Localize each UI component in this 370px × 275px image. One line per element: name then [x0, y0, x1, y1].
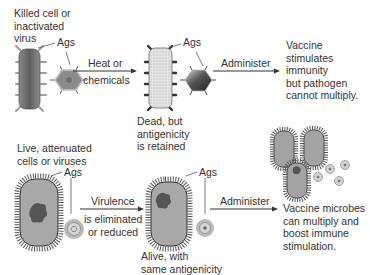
small-virus-icon [64, 219, 84, 239]
or-reduced-label: or reduced [88, 226, 138, 239]
vaccine-no-multiply-label: Vaccine stimulates immunity but pathogen… [286, 39, 358, 102]
killed-cell-icon [16, 46, 46, 111]
administer-label-bottom: Administer [220, 195, 270, 208]
administer-label-top: Administer [221, 57, 271, 70]
ags-pointer-line [51, 172, 62, 176]
virus-hexagon-icon [50, 66, 87, 94]
virulence-label: Virulence [91, 195, 135, 208]
multiplying-microbes-icon [272, 128, 350, 200]
inactivated-virus-hexagon-icon [180, 66, 216, 95]
ags-pointer-line [186, 172, 197, 176]
dead-cell-icon [145, 46, 176, 110]
heat-or-label: Heat or [88, 57, 122, 70]
alive-same-antigenicity-label: Alive, with same antigenicity [141, 250, 222, 275]
ags-pointer-line [66, 52, 70, 65]
ags-label: Ags [183, 36, 201, 49]
ags-label: Ags [64, 166, 82, 179]
is-eliminated-label: is eliminated [84, 213, 142, 226]
dead-but-antigenic-label: Dead, but antigenicity is retained [137, 115, 190, 153]
attenuated-cell-icon [148, 179, 190, 249]
vaccine-microbes-multiply-label: Vaccine microbes can multiply and boost … [283, 202, 365, 252]
live-attenuated-label: Live, attenuated cells or viruses [17, 142, 92, 167]
live-attenuated-cell-icon [17, 176, 61, 249]
ags-pointer-line [196, 52, 203, 66]
small-virus-icon [196, 219, 214, 237]
chemicals-label: chemicals [83, 74, 130, 87]
ags-label: Ags [57, 36, 75, 49]
ags-label: Ags [199, 166, 217, 179]
